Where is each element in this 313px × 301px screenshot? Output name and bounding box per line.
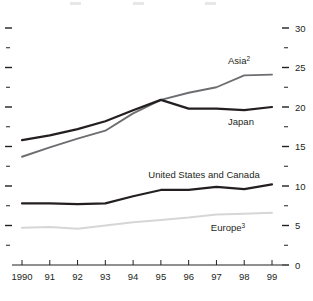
x-tick-label: 91 [44,271,55,282]
series-label-text: Europe3 [211,222,246,234]
y-tick-label: 5 [295,220,300,231]
y-tick-label: 30 [295,23,306,34]
x-tick-label: 92 [72,271,83,282]
x-tick-label: 93 [100,271,111,282]
x-tick-label: 1990 [11,271,32,282]
y-tick-label: 0 [295,260,300,271]
y-tick-label: 10 [295,181,306,192]
series-annotation: Asia2 [228,55,250,67]
x-tick-label: 98 [239,271,250,282]
y-axis-right: 051015202530 [282,23,306,271]
chart-container: 0510152025301990919293949596979899Asia2J… [0,0,313,301]
x-tick-label: 94 [128,271,139,282]
x-tick-label: 97 [211,271,222,282]
y-axis-left [5,28,12,245]
series-label-text: Japan [228,116,254,127]
series-annotation: United States and Canada [148,169,260,180]
y-tick-label: 25 [295,62,306,73]
series-line-united-states-and-canada [22,184,272,204]
top-crop-artifacts [70,2,216,5]
series-label-text: Asia2 [228,55,250,67]
y-tick-label: 15 [295,141,306,152]
series-label-text: United States and Canada [148,169,260,180]
x-tick-label: 99 [267,271,278,282]
x-axis: 1990919293949596979899 [11,260,277,282]
series-annotation: Japan [228,116,254,127]
crop-artifact [70,2,81,5]
x-tick-label: 96 [183,271,194,282]
y-tick-label: 20 [295,102,306,113]
crop-artifact [133,2,144,5]
series-annotation: Europe3 [211,222,246,234]
x-tick-label: 95 [156,271,167,282]
crop-artifact [205,2,216,5]
line-chart: 0510152025301990919293949596979899Asia2J… [0,0,313,301]
